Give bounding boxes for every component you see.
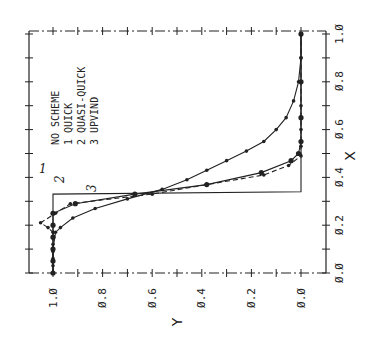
x-tick-label: Ø.4 [333,167,346,187]
y-tick-labels: 1.Ø Ø.8 Ø.6 Ø.4 Ø.2 Ø.Ø [47,288,308,308]
data-point-marker [50,211,55,216]
data-point-marker [262,140,266,144]
data-point-marker [299,32,303,36]
data-point-marker [46,226,50,230]
data-point-marker [245,149,249,153]
data-point-marker [292,99,296,103]
y-axis-title: Y [169,317,185,327]
data-point-marker [51,247,55,251]
data-point-marker [274,128,278,132]
data-point-marker [284,116,288,120]
x-tick-label: Ø.8 [333,71,346,91]
y-tick-label: Ø.Ø [295,288,308,308]
data-point-marker [298,139,303,144]
data-point-marker [51,271,55,275]
legend-entry-upvind: 3 UPVIND [89,97,100,145]
annotation-curve-2: 2 [53,175,67,184]
x-tick-label: 1.Ø [333,24,346,44]
data-point-marker [225,159,229,163]
data-point-marker [73,201,78,206]
x-tick-label: Ø.2 [333,215,346,235]
data-point-marker [93,207,97,211]
data-point-marker [287,164,291,168]
y-tick-label: 1.Ø [47,288,60,308]
legend-entry-quasi-quick: 2 QUASI-QUICK [76,67,87,145]
annotation-curve-3: 3 [85,184,99,192]
data-point-marker [126,197,130,201]
data-point-marker [160,188,164,192]
legend-entry-quick: 1 QUICK [63,103,74,145]
data-point-marker [39,221,43,225]
y-tick-label: Ø.2 [245,288,258,308]
data-point-marker [298,115,303,120]
plot-frame [29,31,326,273]
annotation-curve-1: 1 [39,162,47,176]
series-line-2 [53,34,301,273]
x-tick-label: Ø.6 [333,119,346,139]
data-point-marker [71,216,75,220]
x-tick-label: Ø.Ø [333,263,346,283]
data-point-marker [259,170,264,175]
data-point-marker [54,231,58,235]
data-point-marker [296,151,301,156]
y-tick-label: Ø.6 [146,288,159,308]
data-point-marker [297,80,301,84]
y-tick-label: Ø.8 [96,288,109,308]
series-line-3 [53,34,301,273]
data-point-marker [205,168,209,172]
rotated-line-chart: Ø.Ø Ø.2 Ø.4 Ø.6 Ø.8 1.Ø X 1.Ø Ø.8 Ø.6 Ø.… [0,0,377,358]
y-tick-label: Ø.4 [195,288,208,308]
data-point-marker [59,226,63,230]
x-axis-ticks [25,34,330,273]
data-point-marker [50,223,55,228]
legend-header: NO SCHEME [50,91,61,145]
data-point-marker [204,182,209,187]
legend: NO SCHEME 1 QUICK 2 QUASI-QUICK 3 UPVIND [50,67,100,145]
series-line-exact [53,34,301,273]
y-axis-ticks [53,27,301,277]
data-point-marker [288,158,293,163]
x-axis-title: X [342,151,358,161]
data-point-marker [299,56,303,60]
data-point-marker [185,178,189,182]
